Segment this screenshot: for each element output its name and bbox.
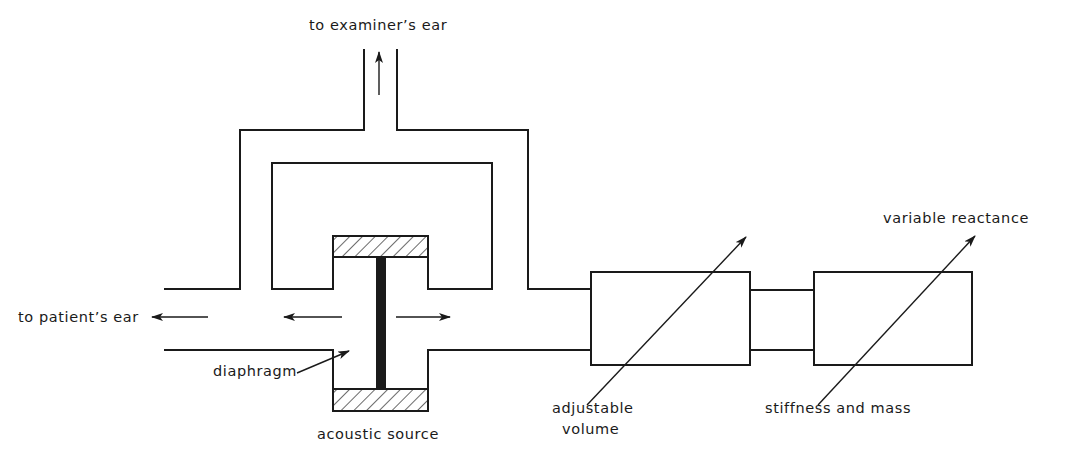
diaphragm-pointer-icon <box>297 351 349 373</box>
label-diaphragm: diaphragm <box>213 363 297 379</box>
hatched-top-block <box>333 236 428 257</box>
variable-arrow-icon <box>818 236 975 405</box>
label-examiner-ear: to examiner’s ear <box>309 17 447 33</box>
label-adjustable: adjustable <box>552 400 634 416</box>
lower-pipe-right <box>428 350 591 391</box>
adjustable-volume-box <box>587 237 750 405</box>
label-acoustic-source: acoustic source <box>317 426 439 442</box>
label-patient-ear: to patient’s ear <box>18 309 139 325</box>
diaphragm <box>376 257 386 389</box>
label-volume: volume <box>562 421 619 437</box>
label-stiffness-mass: stiffness and mass <box>765 400 911 416</box>
inner-loop-left-return <box>272 257 333 289</box>
label-variable-reactance: variable reactance <box>883 210 1029 226</box>
acoustic-bridge-diagram: to examiner’s ear to patient’s ear diaph… <box>0 0 1065 459</box>
hatched-bottom-block <box>333 389 428 411</box>
acoustic-source <box>333 236 428 411</box>
stiffness-mass-box <box>814 236 975 405</box>
variable-arrow-icon <box>587 237 746 405</box>
